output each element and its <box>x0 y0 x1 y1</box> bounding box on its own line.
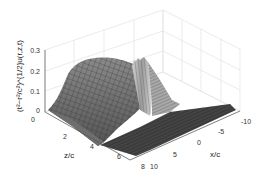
svg-text:0.3: 0.3 <box>30 47 40 54</box>
svg-text:-5: -5 <box>218 128 224 135</box>
surface-plot: 0.3 0.2 0.1 0 0 2 4 6 8 -10 -5 0 5 10 z/… <box>0 0 268 179</box>
svg-text:8: 8 <box>141 163 145 170</box>
svg-text:0: 0 <box>31 116 35 123</box>
svg-text:2: 2 <box>63 133 67 140</box>
svg-text:10: 10 <box>150 163 158 170</box>
svg-text:0.1: 0.1 <box>30 88 40 95</box>
z-axis-label: (t²−r²/c²)^{1/2}u(r,z,t) <box>15 40 24 112</box>
svg-text:0.2: 0.2 <box>30 68 40 75</box>
surface <box>48 57 236 156</box>
svg-text:6: 6 <box>117 153 121 160</box>
svg-text:0: 0 <box>36 107 40 114</box>
svg-text:0: 0 <box>197 139 201 146</box>
svg-text:5: 5 <box>173 151 177 158</box>
z-axis-ticks: 0.3 0.2 0.1 0 <box>30 47 40 114</box>
zc-axis-label: z/c <box>64 151 74 160</box>
svg-text:4: 4 <box>90 143 94 150</box>
xc-axis-label: x/c <box>210 150 220 159</box>
svg-text:-10: -10 <box>241 118 251 125</box>
